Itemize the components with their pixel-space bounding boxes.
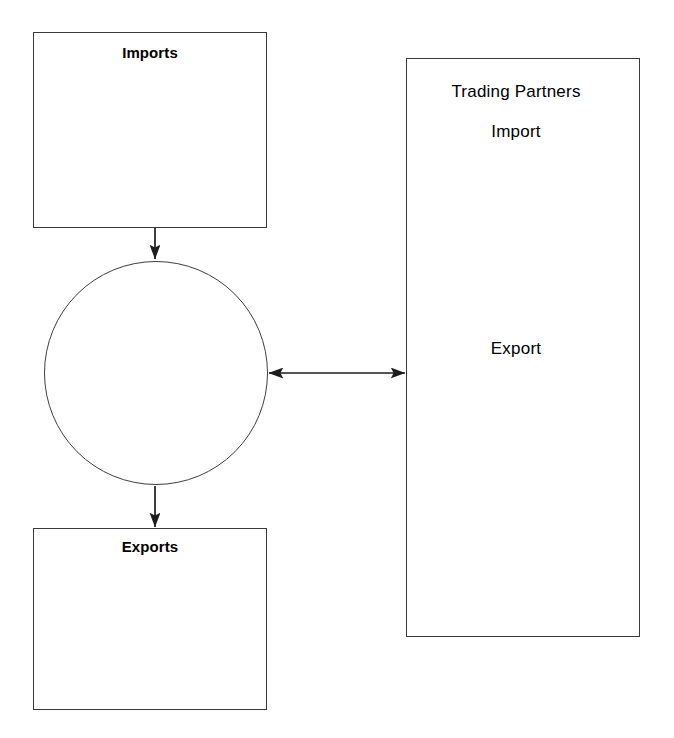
trading-partners-import-label: Import — [491, 123, 540, 140]
diagram-canvas: Imports Exports Trading Partners Import … — [0, 0, 674, 738]
imports-box[interactable] — [33, 32, 267, 228]
process-circle[interactable] — [44, 261, 268, 485]
trading-partners-title-label: Trading Partners — [451, 83, 580, 100]
exports-box[interactable] — [33, 528, 267, 710]
trading-partners-export-label: Export — [491, 340, 541, 357]
imports-label: Imports — [122, 45, 178, 60]
exports-label: Exports — [122, 539, 179, 554]
